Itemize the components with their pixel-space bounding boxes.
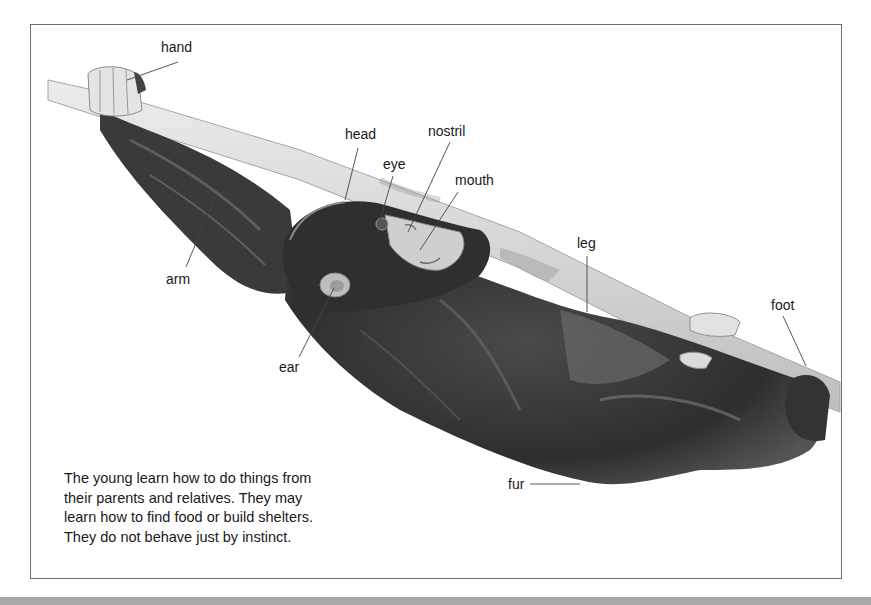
bottom-bar xyxy=(0,597,871,605)
label-hand: hand xyxy=(161,40,192,54)
label-mouth: mouth xyxy=(455,173,494,187)
label-nostril: nostril xyxy=(428,124,465,138)
label-ear: ear xyxy=(279,360,299,374)
caption-line-1: The young learn how to do things from xyxy=(64,469,364,489)
caption-line-4: They do not behave just by instinct. xyxy=(64,528,364,548)
label-foot: foot xyxy=(771,298,794,312)
caption-line-3: learn how to find food or build shelters… xyxy=(64,508,364,528)
caption: The young learn how to do things from th… xyxy=(64,469,364,547)
hand-shape xyxy=(88,67,146,116)
label-head: head xyxy=(345,127,376,141)
leader-hand xyxy=(127,62,178,80)
caption-line-2: their parents and relatives. They may xyxy=(64,489,364,509)
label-leg: leg xyxy=(577,236,596,250)
label-eye: eye xyxy=(383,157,406,171)
label-arm: arm xyxy=(166,272,190,286)
leader-foot xyxy=(783,316,806,366)
label-fur: fur xyxy=(508,477,524,491)
